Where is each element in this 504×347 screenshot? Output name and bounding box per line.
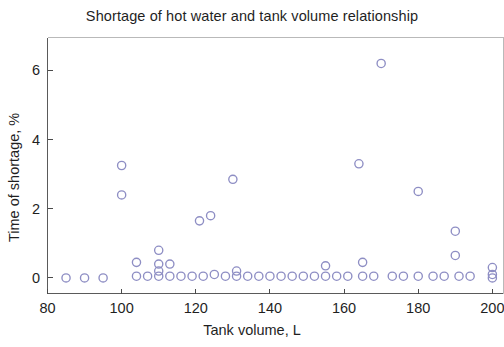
data-point-marker — [177, 272, 185, 280]
data-point-marker — [99, 274, 107, 282]
data-point-marker — [370, 272, 378, 280]
x-tick-label: 160 — [332, 300, 356, 316]
data-point-marker — [310, 272, 318, 280]
data-point-marker — [451, 251, 459, 259]
data-point-marker — [359, 258, 367, 266]
data-point-marker — [321, 272, 329, 280]
data-point-marker — [429, 272, 437, 280]
data-point-marker — [188, 272, 196, 280]
data-point-marker — [195, 217, 203, 225]
chart-figure: Shortage of hot water and tank volume re… — [0, 0, 504, 347]
data-point-marker — [288, 272, 296, 280]
x-tick-label: 80 — [39, 300, 55, 316]
data-point-marker — [155, 272, 163, 280]
data-point-marker — [118, 161, 126, 169]
data-point-marker — [229, 175, 237, 183]
data-point-marker — [414, 187, 422, 195]
x-axis-label: Tank volume, L — [0, 322, 504, 338]
data-point-marker — [388, 272, 396, 280]
data-point-marker — [359, 272, 367, 280]
scatter-plot-canvas — [0, 0, 504, 347]
data-point-marker — [166, 260, 174, 268]
data-point-marker — [344, 272, 352, 280]
data-point-marker — [455, 272, 463, 280]
ticks-group — [48, 70, 493, 293]
data-point-marker — [451, 227, 459, 235]
data-point-marker — [132, 258, 140, 266]
x-tick-label: 140 — [258, 300, 282, 316]
data-point-marker — [244, 272, 252, 280]
x-tick-label: 180 — [406, 300, 430, 316]
data-point-marker — [266, 272, 274, 280]
data-point-marker — [62, 274, 70, 282]
data-point-marker — [166, 272, 174, 280]
data-point-marker — [232, 272, 240, 280]
data-point-marker — [155, 246, 163, 254]
data-point-marker — [80, 274, 88, 282]
x-tick-label: 120 — [184, 300, 208, 316]
data-point-marker — [466, 272, 474, 280]
data-point-marker — [377, 59, 385, 67]
data-points-group — [62, 59, 497, 282]
data-point-marker — [255, 272, 263, 280]
data-point-marker — [321, 262, 329, 270]
data-point-marker — [132, 272, 140, 280]
data-point-marker — [199, 272, 207, 280]
data-point-marker — [207, 212, 215, 220]
data-point-marker — [333, 272, 341, 280]
y-axis-label: Time of shortage, % — [6, 113, 22, 242]
y-tick-label: 0 — [8, 270, 40, 286]
axes-group — [48, 38, 504, 294]
data-point-marker — [355, 160, 363, 168]
data-point-marker — [210, 270, 218, 278]
data-point-marker — [440, 272, 448, 280]
x-tick-label: 200 — [480, 300, 504, 316]
data-point-marker — [299, 272, 307, 280]
y-tick-label: 6 — [8, 62, 40, 78]
data-point-marker — [277, 272, 285, 280]
data-point-marker — [118, 191, 126, 199]
data-point-marker — [399, 272, 407, 280]
data-point-marker — [414, 272, 422, 280]
x-tick-label: 100 — [110, 300, 134, 316]
data-point-marker — [221, 272, 229, 280]
data-point-marker — [144, 272, 152, 280]
